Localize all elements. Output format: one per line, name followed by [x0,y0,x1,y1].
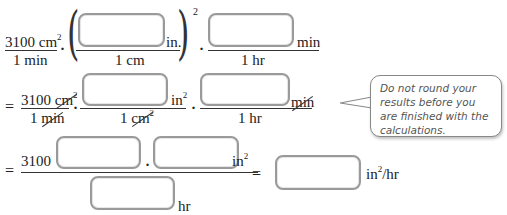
unit: in [171,92,183,108]
value: 1 [120,110,128,126]
equals-sign: = [252,166,261,182]
unit: cm [55,92,73,108]
row1-paren-den: 1 cm [115,53,145,68]
fraction-bar [5,50,57,51]
row1-frac3-num-unit: min [297,35,320,50]
callout-tail [340,96,372,110]
answer-box-4[interactable] [200,73,290,106]
cancelled-unit: cm2 [131,111,154,126]
answer-box-1[interactable] [78,13,165,47]
answer-box-final[interactable] [275,155,361,190]
unit: cm [131,110,149,126]
exponent: 2 [378,164,383,174]
row1-frac1-num-text: 3100 cm [5,34,57,50]
multiply-dot: · [73,101,78,116]
row2-frac2-num-unit: in2 [171,93,187,108]
fraction-bar [21,108,69,109]
answer-box-5[interactable] [56,136,141,169]
row1-frac1-numerator: 3100 cm2 [5,35,62,50]
unit-suffix: /hr [382,166,399,182]
exponent: 2 [244,151,249,161]
equals-sign: = [5,163,14,179]
result-unit: in2/hr [366,167,399,182]
cancelled-unit: min [291,95,314,110]
hint-callout: Do not round your results before you are… [370,75,502,137]
multiply-dot: · [199,42,204,57]
row3-den-unit: hr [178,199,191,214]
multiply-dot: · [145,158,150,173]
row2-frac1-denominator: 1 min [30,111,65,126]
value: 1 [30,110,38,126]
answer-box-6[interactable] [153,136,239,169]
row2-frac2-denominator: 1 cm2 [120,111,154,126]
exponent: 2 [73,90,78,100]
paren-exponent: 2 [193,6,198,17]
answer-box-2[interactable] [208,13,294,47]
row3-num-prefix: 3100 · [21,154,60,169]
fraction-bar [80,108,186,109]
unit: in [366,166,378,182]
fraction-bar [21,172,258,173]
exponent: 2 [183,90,188,100]
row2-frac3-num-unit: min [291,95,314,110]
answer-box-7[interactable] [90,176,175,210]
fraction-bar [76,50,180,51]
row3-num-unit: in2 [232,154,248,169]
row2-frac3-den: 1 hr [238,111,262,126]
right-parenthesis: ) [177,4,189,62]
cancelled-unit: min [41,111,64,126]
unit: in [232,153,244,169]
multiply-dot: · [191,101,196,116]
equals-sign: = [5,99,14,115]
exponent: 2 [150,108,155,118]
row1-frac1-denominator: 1 min [13,53,48,68]
answer-box-3[interactable] [82,73,168,106]
fraction-bar [208,50,319,51]
multiply-dot: · [60,42,65,57]
value: 3100 [21,92,51,108]
row1-frac3-den: 1 hr [241,53,265,68]
row2-frac1-numerator: 3100 cm2 [21,93,78,108]
hint-text: Do not round your results before you are… [380,82,488,136]
